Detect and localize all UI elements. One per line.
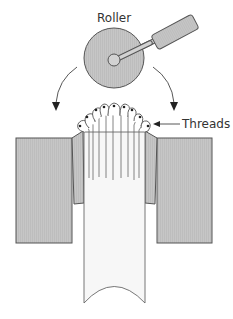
arrowhead-icon xyxy=(52,102,60,111)
arrowhead-icon xyxy=(153,121,160,127)
right-arrow xyxy=(153,67,178,111)
left-tapered-die xyxy=(72,131,84,204)
left-die-block xyxy=(16,138,72,243)
arrowhead-icon xyxy=(170,102,178,111)
threads-pointer xyxy=(153,121,180,127)
roller-label: Roller xyxy=(97,12,131,24)
right-tapered-die xyxy=(145,131,157,204)
threads-label: Threads xyxy=(182,118,230,130)
roller-hub xyxy=(108,54,120,66)
right-die-block xyxy=(157,138,212,243)
thread-rolling-diagram xyxy=(0,0,233,319)
left-arrow xyxy=(52,67,77,111)
roller xyxy=(84,28,150,88)
